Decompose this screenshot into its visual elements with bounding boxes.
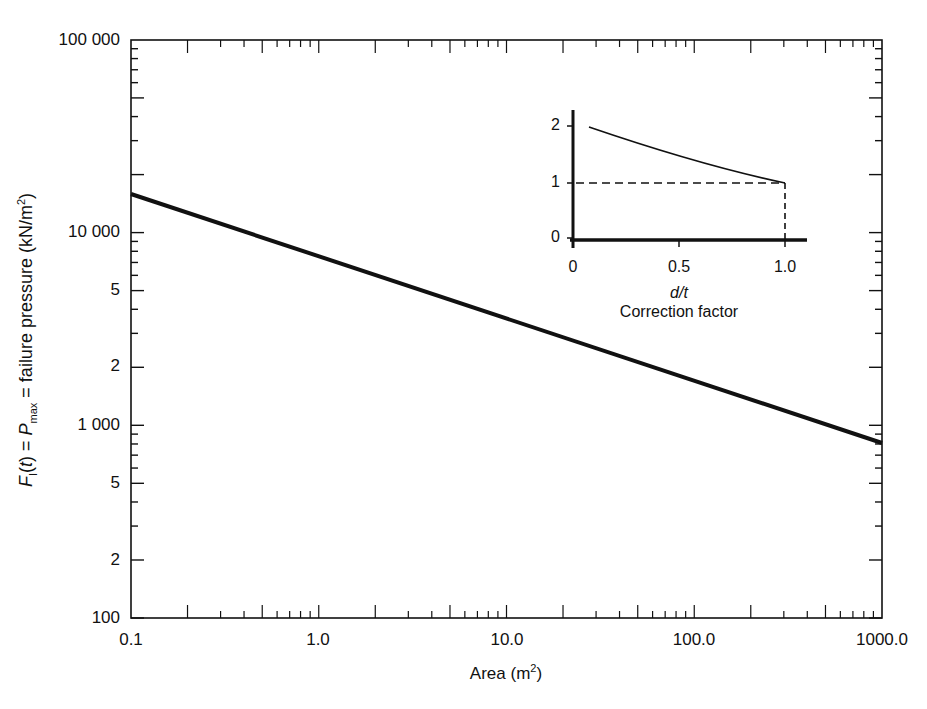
inset-y-tick-label: 2 [551, 117, 560, 133]
x-tick-label: 10.0 [462, 631, 552, 648]
x-tick-label: 0.1 [86, 631, 176, 648]
failure-pressure-line [131, 194, 882, 443]
main-plot-frame [131, 40, 882, 618]
x-axis-ticks [188, 40, 874, 618]
inset-chart [567, 110, 807, 248]
x-tick-label: 1000.0 [837, 631, 927, 648]
x-tick-label: 1.0 [273, 631, 363, 648]
y-tick-label: 2 [10, 551, 120, 568]
inset-correction-curve [589, 127, 785, 183]
x-tick-label: 100.0 [649, 631, 739, 648]
y-tick-label: 100 000 [10, 31, 120, 48]
y-axis-ticks [131, 49, 882, 618]
inset-x-tick-label: 0.5 [639, 259, 719, 275]
x-axis-label: Area (m2) [470, 662, 542, 684]
inset-y-tick-label: 0 [551, 229, 560, 245]
y-tick-label: 100 [10, 609, 120, 626]
inset-x-tick-label: 0 [533, 259, 613, 275]
inset-x-label: d/t [670, 284, 688, 302]
inset-title: Correction factor [620, 303, 738, 321]
inset-x-tick-label: 1.0 [745, 259, 825, 275]
y-axis-label: FI(t) = Pmax = failure pressure (kN/m2) [15, 193, 39, 487]
chart-canvas [0, 0, 927, 709]
inset-y-tick-label: 1 [551, 174, 560, 190]
